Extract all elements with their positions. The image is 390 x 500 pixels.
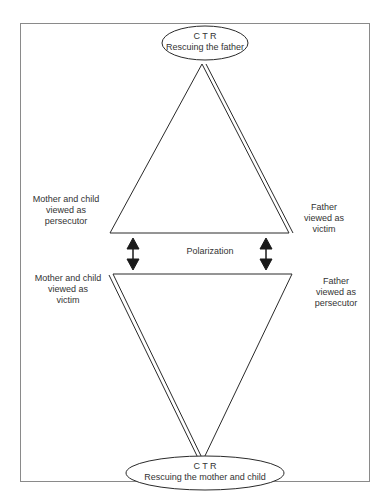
upper-left-label: Mother and child viewed as persecutor [28,194,104,227]
left-polarization-arrow-icon [127,238,139,270]
lower-left-line2: viewed as [30,284,106,295]
upper-left-line1: Mother and child [28,194,104,205]
bottom-node-label: C T R Rescuing the mother and child [125,461,285,483]
upper-left-line2: viewed as [28,205,104,216]
top-node-label: C T R Rescuing the father [160,31,250,53]
right-polarization-arrow-icon [260,238,272,270]
lower-left-label: Mother and child viewed as victim [30,273,106,306]
lower-right-line3: persecutor [304,298,368,309]
upper-right-line3: victim [294,224,354,235]
lower-right-line1: Father [304,276,368,287]
lower-right-label: Father viewed as persecutor [304,276,368,309]
lower-left-line3: victim [30,295,106,306]
lower-left-line1: Mother and child [30,273,106,284]
upper-right-line2: viewed as [294,213,354,224]
lower-right-line2: viewed as [304,287,368,298]
upper-triangle [110,64,293,233]
top-node-title: C T R [160,31,250,42]
bottom-node-title: C T R [125,461,285,472]
top-node-subtitle: Rescuing the father [160,42,250,53]
upper-left-line3: persecutor [28,216,104,227]
polarization-label: Polarization [170,246,250,257]
upper-right-line1: Father [294,202,354,213]
lower-triangle [109,274,292,460]
upper-right-label: Father viewed as victim [294,202,354,235]
bottom-node-subtitle: Rescuing the mother and child [125,472,285,483]
